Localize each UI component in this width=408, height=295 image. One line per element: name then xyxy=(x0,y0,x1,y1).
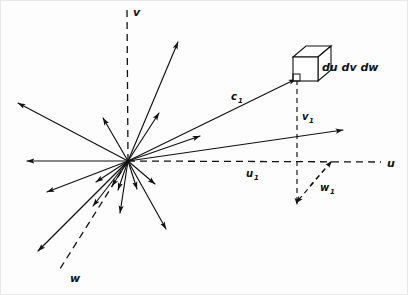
vector-diagram: v u w c 1 u 1 v 1 w 1 du dv dw xyxy=(0,0,408,295)
figure-border xyxy=(1,1,408,295)
label-u1-base: u xyxy=(246,168,253,179)
axis-label-w: w xyxy=(70,272,81,285)
axis-u-line xyxy=(128,161,381,162)
label-u1: u 1 xyxy=(246,168,259,182)
axis-group xyxy=(58,8,381,272)
label-w1: w 1 xyxy=(320,182,335,196)
axis-label-v: v xyxy=(133,6,141,19)
label-u1-sub: 1 xyxy=(254,174,259,182)
label-c1-base: c xyxy=(231,91,237,102)
label-w1-sub: 1 xyxy=(330,188,335,196)
label-c1-sub: 1 xyxy=(238,97,243,105)
label-v1-base: v xyxy=(302,111,309,122)
axis-label-u: u xyxy=(387,157,395,170)
cube-front-face xyxy=(293,57,318,81)
label-w1-base: w xyxy=(320,182,330,193)
figure-container: v u w c 1 u 1 v 1 w 1 du dv dw xyxy=(0,0,408,295)
ray-vector xyxy=(128,136,200,161)
ray-vector xyxy=(128,161,166,229)
axis-v-line xyxy=(127,8,128,161)
ray-vector xyxy=(128,42,178,161)
ray-vector xyxy=(38,161,128,251)
volume-element-label: du dv dw xyxy=(322,61,379,74)
label-v1: v 1 xyxy=(302,111,314,125)
label-v1-sub: 1 xyxy=(309,117,314,125)
label-c1: c 1 xyxy=(231,91,243,105)
ray-vector xyxy=(120,161,128,213)
